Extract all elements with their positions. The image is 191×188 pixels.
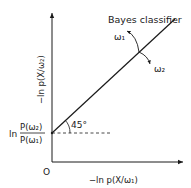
omega2-arrow — [139, 52, 150, 64]
intercept-point — [51, 132, 53, 134]
intercept-denominator: P(ω₁) — [20, 135, 42, 145]
x-axis-label: −ln p(X/ω₁) — [89, 175, 138, 185]
region-label-omega2: ω₂ — [154, 64, 166, 74]
y-axis-label: −ln p(X/ω₂) — [36, 55, 46, 104]
angle-label: 45° — [71, 120, 87, 130]
intercept-ln: ln — [9, 129, 17, 139]
region-label-omega1: ω₁ — [114, 32, 126, 42]
origin-label: O — [43, 167, 50, 177]
bayes-classifier-diagram: Bayes classifier ω₁ ω₂ 45° O −ln p(X/ω₁)… — [0, 0, 191, 188]
boundary-label: Bayes classifier — [108, 14, 182, 25]
intercept-numerator: P(ω₂) — [20, 122, 42, 132]
angle-arc — [65, 120, 70, 133]
omega1-arrow — [127, 31, 139, 52]
